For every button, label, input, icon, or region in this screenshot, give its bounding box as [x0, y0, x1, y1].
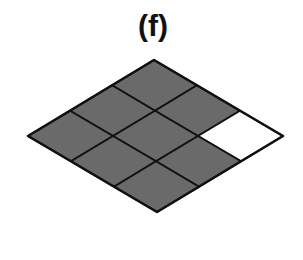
rhombus-grid-diagram: [0, 0, 303, 260]
